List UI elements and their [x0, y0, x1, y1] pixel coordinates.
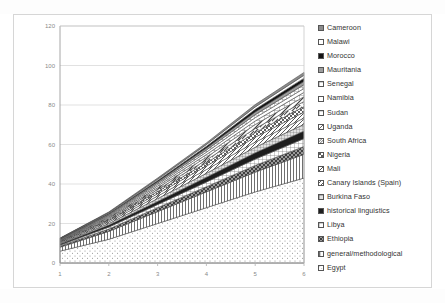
legend-item-label: general/methodological — [327, 247, 402, 261]
legend-item-label: Senegal — [327, 77, 354, 91]
legend-item-label: Mauritania — [327, 63, 361, 77]
legend-item-label: Mali — [327, 162, 340, 176]
page-background-bottom — [0, 289, 445, 303]
area-layers — [60, 72, 304, 263]
legend-item[interactable]: Ethiopia — [318, 232, 428, 246]
legend-item-label: Malawi — [327, 35, 350, 49]
x-tick-label: 1 — [58, 271, 62, 277]
legend-item[interactable]: Malawi — [318, 35, 428, 49]
legend-swatch-icon — [318, 166, 324, 172]
y-tick-label: 80 — [48, 102, 55, 108]
x-axis-tick-marks — [60, 263, 304, 266]
legend-swatch-icon — [318, 81, 324, 87]
legend-swatch-icon — [318, 53, 324, 59]
legend-item[interactable]: Uganda — [318, 120, 428, 134]
legend-swatch-icon — [318, 251, 324, 257]
legend-swatch-icon — [318, 25, 324, 31]
legend-item[interactable]: Burkina Faso — [318, 190, 428, 204]
y-axis-tick-labels: 020406080100120 — [45, 23, 56, 266]
y-tick-label: 0 — [52, 260, 56, 266]
legend-item[interactable]: Libya — [318, 218, 428, 232]
y-tick-label: 120 — [45, 23, 56, 29]
x-axis-tick-labels: 123456 — [58, 271, 306, 277]
legend-item-label: Nigeria — [327, 148, 350, 162]
chart-card: 020406080100120 123456 CameroonMalawiMor… — [13, 14, 432, 288]
legend-item-label: Canary Islands (Spain) — [327, 176, 401, 190]
legend-item-label: Cameroon — [327, 21, 361, 35]
legend-swatch-icon — [318, 138, 324, 144]
legend-item-label: Sudan — [327, 106, 348, 120]
legend-item[interactable]: Morocco — [318, 49, 428, 63]
legend-swatch-icon — [318, 39, 324, 45]
legend-swatch-icon — [318, 67, 324, 73]
legend-item[interactable]: Nigeria — [318, 148, 428, 162]
legend-swatch-icon — [318, 194, 324, 200]
y-tick-label: 100 — [45, 63, 56, 69]
legend-item-label: Libya — [327, 218, 344, 232]
legend-item-label: Burkina Faso — [327, 190, 370, 204]
legend-item-label: Ethiopia — [327, 232, 353, 246]
legend-item[interactable]: Mali — [318, 162, 428, 176]
legend-item[interactable]: Egypt — [318, 261, 428, 275]
legend-swatch-icon — [318, 208, 324, 214]
legend-swatch-icon — [318, 180, 324, 186]
legend-swatch-icon — [318, 124, 324, 130]
x-tick-label: 4 — [205, 271, 209, 277]
legend-item[interactable]: South Africa — [318, 134, 428, 148]
x-tick-label: 2 — [107, 271, 111, 277]
y-tick-label: 60 — [48, 142, 55, 148]
legend-swatch-icon — [318, 96, 324, 102]
legend-item[interactable]: Sudan — [318, 106, 428, 120]
legend-item-label: Namibia — [327, 91, 354, 105]
legend-item[interactable]: Mauritania — [318, 63, 428, 77]
legend-item[interactable]: Cameroon — [318, 21, 428, 35]
page-background-top — [0, 0, 445, 14]
chart-legend: CameroonMalawiMoroccoMauritaniaSenegalNa… — [318, 21, 428, 275]
legend-swatch-icon — [318, 222, 324, 228]
legend-item-label: Uganda — [327, 120, 352, 134]
legend-item-label: Egypt — [327, 261, 346, 275]
x-tick-label: 5 — [254, 271, 258, 277]
legend-item[interactable]: Senegal — [318, 77, 428, 91]
legend-item-label: historical linguistics — [327, 204, 390, 218]
legend-item-label: South Africa — [327, 134, 366, 148]
legend-swatch-icon — [318, 236, 324, 242]
legend-swatch-icon — [318, 152, 324, 158]
x-tick-label: 3 — [156, 271, 160, 277]
legend-item[interactable]: Namibia — [318, 91, 428, 105]
legend-swatch-icon — [318, 110, 324, 116]
legend-item-label: Morocco — [327, 49, 355, 63]
legend-item[interactable]: Canary Islands (Spain) — [318, 176, 428, 190]
y-tick-label: 20 — [48, 221, 55, 227]
legend-swatch-icon — [318, 265, 324, 271]
legend-item[interactable]: historical linguistics — [318, 204, 428, 218]
x-tick-label: 6 — [302, 271, 306, 277]
y-tick-label: 40 — [48, 181, 55, 187]
legend-item[interactable]: general/methodological — [318, 247, 428, 261]
